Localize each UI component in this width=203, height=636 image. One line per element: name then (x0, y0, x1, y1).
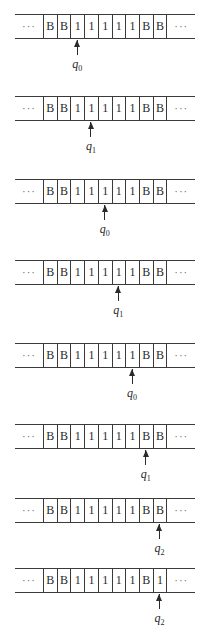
tape-cell: B (43, 180, 57, 203)
tape-cell: B (57, 569, 71, 592)
tape-cell: 1 (70, 180, 84, 203)
arrowhead-icon (74, 40, 80, 47)
tape-cell: B (57, 499, 71, 522)
tape-cell: 1 (125, 261, 139, 284)
tape-cell: 1 (112, 499, 126, 522)
tape-cell: 1 (112, 344, 126, 367)
tape-cell: B (57, 261, 71, 284)
tape-cell: B (153, 180, 168, 203)
tape-cell: 1 (125, 15, 139, 38)
state-subscript: 1 (147, 474, 151, 483)
tape-cell: 1 (84, 344, 98, 367)
tape-ellipsis-right: ··· (167, 499, 195, 522)
tape-step-8: ···BB11111B1··· (15, 568, 195, 593)
tape-ellipsis-right: ··· (167, 569, 195, 592)
tape-cell: 1 (84, 15, 98, 38)
tape-cell: 1 (112, 180, 126, 203)
state-label: q0 (67, 57, 87, 73)
state-subscript: 1 (92, 146, 96, 155)
tape-cell: 1 (84, 569, 98, 592)
tape-cell: 1 (84, 180, 98, 203)
tape-cell: 1 (125, 425, 139, 448)
tape-ellipsis-right: ··· (167, 261, 195, 284)
tape-cell: B (57, 180, 71, 203)
tape-ellipsis-right: ··· (167, 180, 195, 203)
tape-cell: B (153, 344, 168, 367)
tape-cell: 1 (70, 425, 84, 448)
tape-ellipsis-left: ··· (15, 425, 43, 448)
tape-cell: 1 (70, 499, 84, 522)
state-subscript: 0 (133, 393, 137, 402)
tape-cell: B (139, 569, 153, 592)
tape-step-3: ···BB11111BB··· (15, 179, 195, 204)
tape-cell: 1 (98, 261, 112, 284)
tape-step-7: ···BB11111BB··· (15, 498, 195, 523)
tape-cell: B (43, 97, 57, 120)
tape-cell: 1 (153, 569, 168, 592)
tape-ellipsis-right: ··· (167, 97, 195, 120)
tape-cell: 1 (112, 261, 126, 284)
tape-cell: 1 (98, 97, 112, 120)
arrowhead-icon (129, 369, 135, 376)
state-label: q0 (122, 386, 142, 402)
tape-ellipsis-left: ··· (15, 261, 43, 284)
tape-cell: 1 (98, 180, 112, 203)
tape-ellipsis-left: ··· (15, 15, 43, 38)
tape-ellipsis-right: ··· (167, 425, 195, 448)
arrowhead-icon (156, 594, 162, 601)
tape-cell: B (43, 499, 57, 522)
tape-cell: B (139, 15, 153, 38)
tape-cell: 1 (125, 344, 139, 367)
tape-step-5: ···BB11111BB··· (15, 343, 195, 368)
arrowhead-icon (88, 122, 94, 129)
arrowhead-icon (143, 450, 149, 457)
state-label: q2 (149, 541, 169, 557)
state-subscript: 2 (160, 618, 164, 627)
tape-cell: B (139, 180, 153, 203)
tape-cell: B (57, 344, 71, 367)
tape-cell: 1 (84, 261, 98, 284)
state-label: q1 (136, 467, 156, 483)
state-label: q0 (95, 222, 115, 238)
tape-cell: 1 (125, 499, 139, 522)
state-subscript: 0 (78, 64, 82, 73)
tape-cell: 1 (98, 499, 112, 522)
tape-cell: 1 (112, 569, 126, 592)
tape-cell: B (139, 344, 153, 367)
tape-step-4: ···BB11111BB··· (15, 260, 195, 285)
tape-cell: 1 (112, 97, 126, 120)
arrowhead-icon (115, 286, 121, 293)
tape-cell: B (153, 15, 168, 38)
tape-cell: 1 (112, 15, 126, 38)
tape-cell: 1 (98, 569, 112, 592)
state-label: q1 (108, 303, 128, 319)
tape-cell: 1 (98, 15, 112, 38)
state-subscript: 1 (119, 310, 123, 319)
arrowhead-icon (156, 524, 162, 531)
arrowhead-icon (102, 205, 108, 212)
tape-cell: B (57, 15, 71, 38)
tape-cell: B (139, 261, 153, 284)
tape-cell: 1 (125, 97, 139, 120)
tape-cell: 1 (70, 569, 84, 592)
tape-cell: B (139, 425, 153, 448)
tape-cell: 1 (70, 97, 84, 120)
tape-cell: 1 (84, 425, 98, 448)
tape-cell: 1 (98, 425, 112, 448)
state-label: q1 (81, 139, 101, 155)
state-subscript: 0 (106, 229, 110, 238)
tape-cell: 1 (98, 344, 112, 367)
tape-ellipsis-left: ··· (15, 569, 43, 592)
tape-cell: B (43, 569, 57, 592)
tape-cell: 1 (125, 569, 139, 592)
tape-cell: B (43, 344, 57, 367)
tape-cell: B (43, 425, 57, 448)
tape-cell: B (153, 499, 168, 522)
tape-ellipsis-left: ··· (15, 97, 43, 120)
tape-cell: 1 (70, 15, 84, 38)
tape-cell: B (153, 261, 168, 284)
tape-step-1: ···BB11111BB··· (15, 14, 195, 39)
tape-cell: B (153, 97, 168, 120)
tape-cell: 1 (125, 180, 139, 203)
tape-ellipsis-right: ··· (167, 15, 195, 38)
